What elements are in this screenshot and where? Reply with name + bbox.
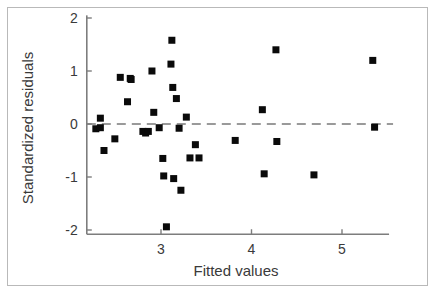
y-tick-label: -2 — [65, 222, 78, 238]
data-point-marker — [310, 171, 317, 178]
data-point-marker — [156, 124, 163, 131]
data-point-marker — [150, 109, 157, 116]
data-point-marker — [167, 61, 174, 68]
x-axis-title: Fitted values — [193, 262, 278, 279]
data-point-marker — [183, 114, 190, 121]
x-tick-label: 5 — [338, 241, 346, 257]
data-point-marker — [232, 137, 239, 144]
residual-scatter-plot: 345 210-1-2 Fitted values Standardized r… — [0, 0, 436, 294]
x-tick-label: 3 — [157, 241, 165, 257]
data-point-marker — [259, 106, 266, 113]
data-point-marker — [369, 57, 376, 64]
chart-canvas: 345 210-1-2 Fitted values Standardized r… — [0, 0, 436, 294]
y-tick-label: 1 — [70, 63, 78, 79]
x-tick-label: 4 — [248, 241, 256, 257]
data-point-marker — [173, 95, 180, 102]
data-point-marker — [163, 223, 170, 230]
data-point-marker — [111, 135, 118, 142]
data-point-marker — [97, 115, 104, 122]
data-point-marker — [177, 187, 184, 194]
data-point-marker — [160, 172, 167, 179]
data-point-marker — [170, 175, 177, 182]
y-axis-title: Standardized residuals — [19, 52, 36, 205]
data-point-marker — [148, 68, 155, 75]
data-point-marker — [145, 128, 152, 135]
data-point-marker — [261, 170, 268, 177]
data-point-marker — [117, 74, 124, 81]
data-point-marker — [186, 154, 193, 161]
data-point-marker — [168, 37, 175, 44]
data-point-marker — [169, 84, 176, 91]
axis-ticks — [87, 18, 342, 234]
y-tick-label: -1 — [65, 169, 78, 185]
data-point-marker — [97, 124, 104, 131]
data-point-marker — [124, 98, 131, 105]
y-tick-label: 2 — [70, 10, 78, 26]
y-axis-tick-labels: 210-1-2 — [65, 10, 78, 238]
data-point-marker — [273, 138, 280, 145]
data-point-marker — [192, 141, 199, 148]
data-point-markers — [92, 37, 378, 231]
data-point-marker — [371, 124, 378, 131]
data-point-marker — [100, 147, 107, 154]
data-point-marker — [159, 155, 166, 162]
data-point-marker — [176, 125, 183, 132]
data-point-marker — [128, 76, 135, 83]
data-point-marker — [272, 46, 279, 53]
y-tick-label: 0 — [70, 116, 78, 132]
data-point-marker — [196, 154, 203, 161]
x-axis-tick-labels: 345 — [157, 241, 346, 257]
